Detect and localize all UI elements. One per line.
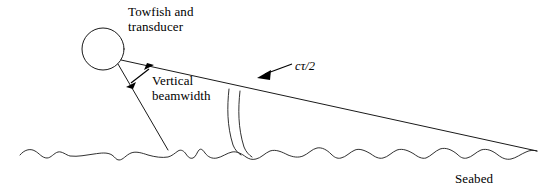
seabed-label: Seabed	[455, 171, 493, 186]
pulse-length-label: cτ/2	[295, 59, 315, 74]
seabed-wavy-line	[20, 148, 537, 160]
sonar-geometry-diagram: Towfish and transducer Vertical beamwidt…	[0, 0, 555, 196]
towfish-circle	[82, 28, 124, 70]
vertical-beamwidth-label: Vertical beamwidth	[152, 73, 211, 103]
towfish-label: Towfish and transducer	[128, 4, 194, 34]
beamwidth-arrowhead-lower	[126, 82, 136, 89]
vertical-beamwidth-double-arrow	[131, 69, 149, 83]
diagram-canvas	[0, 0, 555, 196]
pulse-annulus-arc-outer	[239, 91, 252, 157]
pulse-leader-arrowhead	[257, 70, 271, 80]
